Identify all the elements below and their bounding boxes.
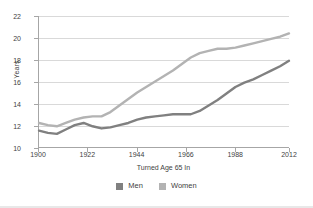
x-tick-label: 1922 [67, 151, 107, 159]
x-tick-label: 1988 [215, 151, 255, 159]
x-tick-mark [186, 148, 187, 152]
x-axis-title: Turned Age 65 In [38, 164, 289, 171]
y-tick-label: 20 [0, 35, 21, 42]
chart-card: Years 10121416182022 1900192219441966198… [0, 0, 313, 208]
x-tick-mark [137, 148, 138, 152]
y-tick-label: 12 [0, 123, 21, 130]
x-tick-mark [235, 148, 236, 152]
legend-label: Men [128, 182, 143, 190]
y-tick-label: 22 [0, 13, 21, 20]
x-tick-label: 1944 [117, 151, 157, 159]
x-tick-mark [87, 148, 88, 152]
legend-label: Women [171, 182, 197, 190]
legend-item-men[interactable]: Men [116, 182, 143, 190]
plot-area [38, 16, 289, 148]
y-tick-label: 18 [0, 57, 21, 64]
x-tick-label: 1966 [166, 151, 206, 159]
legend-swatch-icon [116, 183, 123, 190]
y-tick-label: 16 [0, 79, 21, 86]
chart-legend: MenWomen [0, 182, 313, 190]
x-tick-label: 1900 [18, 151, 58, 159]
y-tick-label: 14 [0, 101, 21, 108]
line-men [39, 61, 289, 134]
legend-item-women[interactable]: Women [159, 182, 197, 190]
x-tick-mark [289, 148, 290, 152]
x-tick-mark [38, 148, 39, 152]
series-lines [39, 16, 289, 147]
legend-swatch-icon [159, 183, 166, 190]
x-tick-label: 2012 [269, 151, 309, 159]
